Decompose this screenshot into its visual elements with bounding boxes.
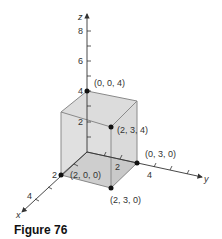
z-tick-8: 8	[78, 26, 83, 36]
point-2-0-0	[59, 173, 64, 178]
z-axis-label: z	[77, 12, 83, 22]
label-2-0-0: (2, 0, 0)	[70, 170, 101, 180]
z-tick-2: 2	[78, 117, 83, 127]
label-2-3-0: (2, 3, 0)	[110, 195, 141, 205]
figure-canvas: z y x 2 4 6 8 2 4 2 4 (0, 0, 4) (2, 3, 4…	[0, 0, 222, 239]
x-tick-2: 2	[52, 170, 57, 180]
figure-caption: Figure 76	[14, 223, 68, 237]
point-0-0-4	[85, 89, 90, 94]
label-0-0-4: (0, 0, 4)	[94, 78, 125, 88]
point-2-3-0	[109, 186, 114, 191]
x-axis	[22, 152, 87, 212]
point-2-3-4	[109, 125, 114, 130]
y-tick-2: 2	[115, 162, 120, 172]
label-0-3-0: (0, 3, 0)	[145, 149, 176, 159]
z-tick-6: 6	[78, 56, 83, 66]
z-tick-4: 4	[78, 86, 83, 96]
label-2-3-4: (2, 3, 4)	[117, 125, 148, 135]
x-tick-4: 4	[27, 191, 32, 201]
x-axis-label: x	[15, 210, 21, 220]
point-0-3-0	[135, 161, 140, 166]
y-axis-label: y	[203, 174, 209, 184]
y-tick-4: 4	[147, 170, 152, 180]
